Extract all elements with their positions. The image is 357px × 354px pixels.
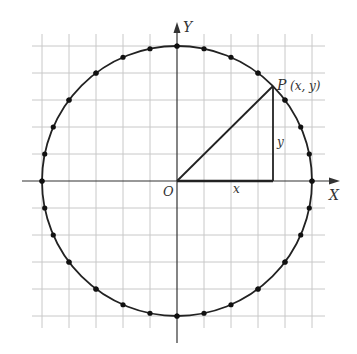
circle-point [298, 232, 303, 237]
circle-point [298, 124, 303, 129]
x-leg-label: x [233, 182, 240, 196]
y-leg-label: y [276, 135, 284, 149]
circle-point [228, 55, 233, 60]
circle-point [42, 151, 47, 156]
point-coords-label: (x, y) [290, 79, 321, 93]
circle-point [201, 46, 206, 51]
x-axis-label: X [328, 187, 340, 203]
circle-point [282, 97, 287, 102]
circle-point [120, 302, 125, 307]
x-axis-arrow-icon [329, 178, 340, 185]
circle-point [147, 46, 152, 51]
circle-point [51, 232, 56, 237]
circle-point [255, 286, 260, 291]
circle-point [282, 259, 287, 264]
circle-point [39, 178, 44, 183]
circle-point [42, 205, 47, 210]
circle-point [93, 286, 98, 291]
circle-point [309, 178, 314, 183]
circle-point [66, 259, 71, 264]
circle-point [93, 70, 98, 75]
circle-point [120, 55, 125, 60]
circle-point [66, 97, 71, 102]
circle-point [307, 205, 312, 210]
circle-point [174, 313, 179, 318]
circle-point [147, 311, 152, 316]
y-axis-label: Y [183, 19, 194, 35]
circle-point [201, 311, 206, 316]
circle-point [307, 151, 312, 156]
circle-point [228, 302, 233, 307]
circle-point [51, 124, 56, 129]
point-p-label: P [276, 77, 287, 93]
y-axis-arrow-icon [174, 22, 181, 33]
circle-point [174, 43, 179, 48]
origin-label: O [163, 184, 174, 199]
unit-circle-diagram: Y X O P (x, y) y x [0, 0, 357, 354]
circle-point [255, 70, 260, 75]
